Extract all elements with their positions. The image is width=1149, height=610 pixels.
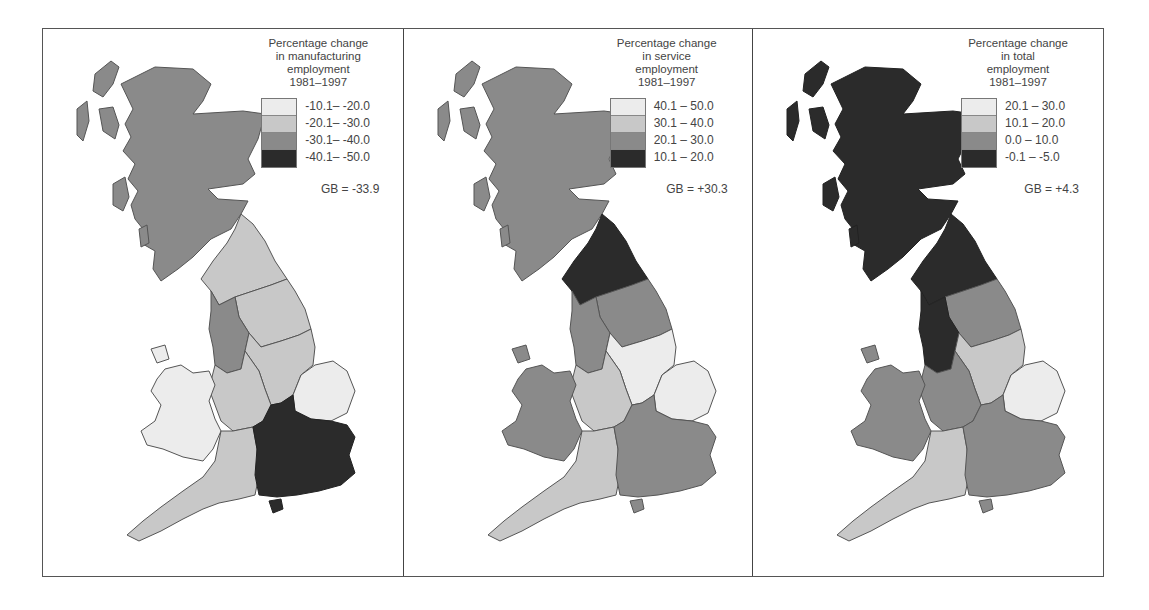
swatch-class-4 bbox=[611, 150, 645, 167]
region-wales bbox=[141, 365, 221, 461]
swatch-class-1 bbox=[262, 99, 296, 116]
legend-title: Percentage change in service employment … bbox=[592, 37, 742, 89]
panel-service: Percentage change in service employment … bbox=[403, 29, 751, 576]
gb-total-label: GB = +4.3 bbox=[943, 182, 1093, 196]
figure-frame: Percentage change in manufacturing emplo… bbox=[42, 28, 1104, 577]
legend-title: Percentage change in total employment 19… bbox=[943, 37, 1093, 89]
gb-total-label: GB = -33.9 bbox=[243, 182, 393, 196]
legend-label: 20.1 – 30.0 bbox=[1005, 98, 1065, 115]
legend-label: 10.1 – 20.0 bbox=[654, 149, 714, 166]
legend-title: Percentage change in manufacturing emplo… bbox=[243, 37, 393, 89]
swatch-class-3 bbox=[262, 133, 296, 150]
swatch-class-3 bbox=[611, 133, 645, 150]
swatch-class-3 bbox=[962, 133, 996, 150]
legend-label: 30.1 – 40.0 bbox=[654, 115, 714, 132]
legend-label: -20.1– -30.0 bbox=[305, 115, 370, 132]
legend-label: 40.1 – 50.0 bbox=[654, 98, 714, 115]
region-wales bbox=[851, 365, 931, 461]
legend-label: -10.1– -20.0 bbox=[305, 98, 370, 115]
swatch-class-1 bbox=[962, 99, 996, 116]
swatch-class-2 bbox=[262, 116, 296, 133]
legend-swatches bbox=[961, 98, 997, 168]
legend-label: -40.1– -50.0 bbox=[305, 149, 370, 166]
legend-label: -30.1– -40.0 bbox=[305, 132, 370, 149]
map-legend: Percentage change in service employment … bbox=[592, 37, 742, 196]
map-legend: Percentage change in manufacturing emplo… bbox=[243, 37, 393, 196]
legend-label: 10.1 – 20.0 bbox=[1005, 115, 1065, 132]
swatch-class-2 bbox=[962, 116, 996, 133]
swatch-class-4 bbox=[962, 150, 996, 167]
gb-total-label: GB = +30.3 bbox=[592, 182, 742, 196]
map-legend: Percentage change in total employment 19… bbox=[943, 37, 1093, 196]
panel-manufacturing: Percentage change in manufacturing emplo… bbox=[43, 29, 403, 576]
region-wales bbox=[502, 365, 582, 461]
legend-label: 20.1 – 30.0 bbox=[654, 132, 714, 149]
swatch-class-2 bbox=[611, 116, 645, 133]
legend-swatches bbox=[261, 98, 297, 168]
legend-swatches bbox=[610, 98, 646, 168]
panel-total: Percentage change in total employment 19… bbox=[752, 29, 1103, 576]
legend-label: -0.1 – -5.0 bbox=[1005, 149, 1065, 166]
swatch-class-4 bbox=[262, 150, 296, 167]
swatch-class-1 bbox=[611, 99, 645, 116]
legend-label: 0.0 – 10.0 bbox=[1005, 132, 1065, 149]
